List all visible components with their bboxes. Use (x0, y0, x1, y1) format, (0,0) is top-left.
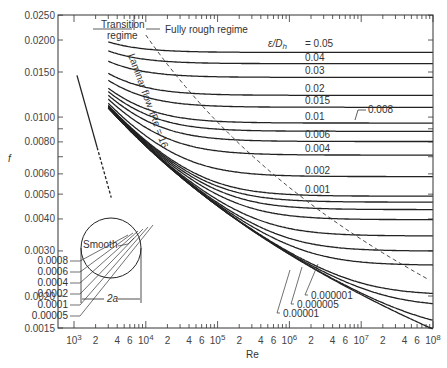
label-leader-0.008 (355, 110, 366, 120)
x-tick-label: 103 (66, 333, 82, 346)
curve-label-0.04: 0.04 (305, 52, 325, 63)
x-tick-label: 6 (342, 335, 348, 346)
laminar-dashed (97, 147, 111, 197)
x-tick-label: 104 (138, 333, 154, 346)
laminar-line (77, 75, 97, 147)
x-tick-label: 2 (236, 335, 242, 346)
x-tick-label: 6 (414, 335, 420, 346)
x-tick-label: 6 (199, 335, 205, 346)
x-tick-label: 2 (165, 335, 171, 346)
x-tick-label: 4 (402, 335, 408, 346)
curve-label-0.002: 0.002 (305, 165, 330, 176)
chart-svg: 1032461042461052461062461072461080.00150… (0, 0, 447, 368)
curve-label-0.006: 0.006 (305, 129, 330, 140)
curve-label-0.001: 0.001 (305, 184, 330, 195)
curve-label-0.004: 0.004 (305, 143, 330, 154)
label-leader-0.00001 (277, 270, 290, 313)
x-tick-label: 2 (93, 335, 99, 346)
y-axis-label: f (8, 153, 12, 164)
plot-frame (58, 15, 433, 328)
curve-label-0.0004: 0.0004 (37, 277, 68, 288)
curve-label-0.00005: 0.00005 (32, 310, 69, 321)
y-tick-label: 0.0015 (24, 323, 55, 334)
y-tick-label: 0.0040 (24, 213, 55, 224)
transition-label-1: Transition (101, 19, 145, 30)
y-tick-label: 0.0080 (24, 136, 55, 147)
y-tick-label: 0.0060 (24, 168, 55, 179)
transition-label-2: regime (107, 30, 138, 41)
curve-label-0.02: 0.02 (305, 83, 325, 94)
x-tick-label: 6 (127, 335, 133, 346)
x-tick-label: 2 (308, 335, 314, 346)
curve-label-0.015: 0.015 (305, 95, 330, 106)
x-tick-label: 4 (186, 335, 192, 346)
curve-label-0.0001: 0.0001 (37, 299, 68, 310)
x-tick-label: 4 (114, 335, 120, 346)
curve-0.02 (108, 73, 433, 95)
y-tick-label: 0.0200 (24, 35, 55, 46)
eps-first-label: = 0.05 (305, 38, 334, 49)
curve-labels: 0.040.030.020.0150.010.0060.0040.0020.00… (32, 52, 394, 321)
fully-rough-label: Fully rough regime (165, 24, 248, 35)
x-tick-label: 106 (282, 333, 298, 346)
y-tick-label: 0.0100 (24, 112, 55, 123)
curve-label-0.0006: 0.0006 (37, 266, 68, 277)
eps-prefix: ε/Dh (268, 38, 287, 51)
curve-label-0.0002: 0.0002 (37, 288, 68, 299)
y-tick-label: 0.0050 (24, 189, 55, 200)
axes: 1032461042461052461062461072461080.00150… (24, 10, 441, 346)
curve-label-0.008: 0.008 (368, 104, 393, 115)
curve-label-0.000001: 0.000001 (311, 290, 353, 301)
curve-label-0.0008: 0.0008 (37, 255, 68, 266)
x-axis-label: Re (246, 349, 259, 360)
x-tick-label: 4 (258, 335, 264, 346)
pipe-dim-label: 2a (106, 293, 119, 304)
x-tick-label: 108 (425, 333, 441, 346)
curve-label-0.03: 0.03 (305, 65, 325, 76)
x-tick-label: 105 (210, 333, 226, 346)
moody-chart: 1032461042461052461062461072461080.00150… (0, 0, 447, 368)
x-tick-label: 107 (353, 333, 369, 346)
fully-rough-boundary (146, 35, 430, 280)
y-tick-label: 0.0150 (24, 67, 55, 78)
x-tick-label: 6 (271, 335, 277, 346)
x-tick-label: 2 (380, 335, 386, 346)
y-tick-label: 0.0250 (24, 10, 55, 21)
x-tick-label: 4 (330, 335, 336, 346)
curve-label-0.01: 0.01 (305, 111, 325, 122)
